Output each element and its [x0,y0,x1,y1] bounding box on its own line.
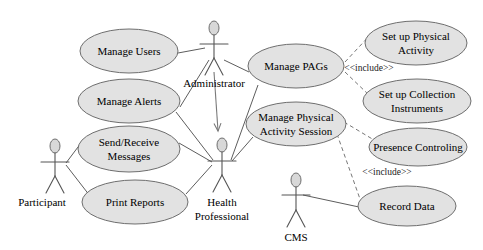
use-case-label: Manage Users [97,45,160,57]
actor-head-icon [50,139,60,153]
use-case-label-line1: Send/Receive [99,136,160,148]
use-case-label-line2: Instruments [391,102,443,114]
actor-leg-right [55,176,64,193]
use-case-manage-alerts[interactable]: Manage Alerts [78,79,180,123]
actor-leg-left [46,176,55,193]
assoc-participant-print-reports [66,165,90,196]
actor-leg-right [296,210,305,227]
include-manage-pa-session-record-data [337,134,360,199]
assoc-health-professional-print-reports [186,165,212,194]
actor-administrator[interactable]: Administrator [183,21,245,89]
include-stereotype-bottom: <<include>> [362,167,411,177]
use-case-label: Record Data [379,200,434,212]
assoc-administrator-manage-pags [224,60,249,72]
actor-cms[interactable]: CMS [282,173,310,243]
use-case-manage-physical-activity-session[interactable]: Manage Physical Activity Session [246,102,346,146]
assoc-cms-record-data [303,195,359,207]
include-manage-pa-session-presence-controling [344,122,374,140]
actor-label: Administrator [183,77,245,89]
actor-head-icon [217,138,227,152]
use-case-record-data[interactable]: Record Data [358,186,456,226]
use-case-presence-controling[interactable]: Presence Controling [369,128,467,166]
use-case-label-line2: Activity [398,44,435,56]
use-case-label-line1: Set up Physical [382,30,450,42]
actor-label: CMS [284,231,307,243]
actor-leg-left [205,58,214,75]
use-case-label: Manage PAGs [264,60,327,72]
use-case-manage-pags[interactable]: Manage PAGs [248,44,344,88]
actor-head-icon [209,21,219,35]
use-case-label: Manage Alerts [97,95,161,107]
actor-label-line1: Health [207,196,237,208]
assoc-health-professional-manage-alerts [176,112,213,160]
use-case-set-up-physical-activity[interactable]: Set up Physical Activity [365,21,467,65]
assoc-administrator-manage-users [178,48,205,53]
use-case-print-reports[interactable]: Print Reports [82,180,188,224]
include-manage-pags-setup-collection-instruments [345,72,370,96]
actor-label-line2: Professional [195,210,249,222]
actor-leg-left [287,210,296,227]
use-case-label-line2: Messages [108,150,151,162]
use-case-label-line1: Manage Physical [258,111,333,123]
use-case-label: Print Reports [106,196,164,208]
use-case-diagram: Manage Users Manage Alerts Send/Receive … [0,0,483,250]
use-case-set-up-collection-instruments[interactable]: Set up Collection Instruments [363,79,471,123]
actor-leg-right [222,175,231,192]
include-stereotype-top: <<include>> [344,63,393,73]
uml-canvas: Manage Users Manage Alerts Send/Receive … [0,0,483,250]
use-case-label: Presence Controling [373,141,463,153]
actor-leg-left [213,175,222,192]
actor-leg-right [214,58,223,75]
actor-head-icon [291,173,301,187]
use-case-label-line1: Set up Collection [379,88,456,100]
use-case-label-line2: Activity Session [260,125,333,137]
actor-participant[interactable]: Participant [18,139,69,208]
actor-label: Participant [18,196,66,208]
use-case-manage-users[interactable]: Manage Users [80,29,178,73]
use-case-send-receive-messages[interactable]: Send/Receive Messages [78,126,180,172]
